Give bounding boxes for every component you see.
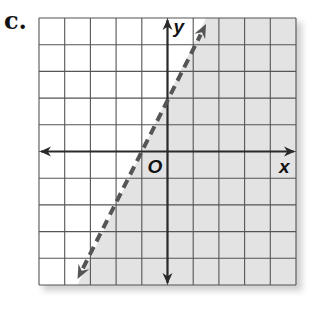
x-axis-label: x — [278, 156, 291, 177]
coordinate-plane: x y O — [0, 0, 313, 320]
y-axis-label: y — [173, 16, 186, 37]
origin-label: O — [148, 156, 163, 177]
